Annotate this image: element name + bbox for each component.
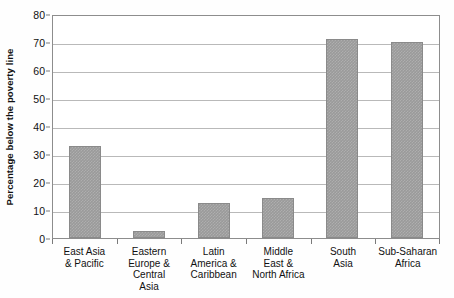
y-tick-mark: [46, 71, 50, 72]
y-axis-title: Percentage below the poverty line: [4, 49, 15, 206]
bar-slot: [182, 16, 246, 238]
y-axis-ticks: 01020304050607080: [18, 0, 50, 298]
x-category-label-line: & Pacific: [53, 258, 116, 270]
x-category-label-line: North Africa: [247, 269, 310, 281]
x-category-label-line: Sub-Saharan: [376, 246, 439, 258]
y-tick-mark: [46, 99, 50, 100]
y-tick-mark: [46, 15, 50, 16]
y-tick-label: 0: [39, 233, 45, 245]
x-category-label-line: Africa: [376, 258, 439, 270]
bar-slot: [117, 16, 181, 238]
x-category-label-line: America &: [182, 258, 245, 270]
y-tick-label: 50: [33, 93, 45, 105]
y-tick-mark: [46, 127, 50, 128]
x-axis-ticks: [52, 239, 440, 245]
y-tick-label: 10: [33, 205, 45, 217]
bar-slot: [310, 16, 374, 238]
bar-slot: [246, 16, 310, 238]
x-category-label: EasternEurope &CentralAsia: [117, 246, 182, 292]
x-category-label: East Asia& Pacific: [52, 246, 117, 292]
y-axis-title-container: Percentage below the poverty line: [0, 15, 18, 239]
bar: [326, 39, 358, 238]
bar: [391, 42, 423, 238]
y-tick-mark: [46, 43, 50, 44]
x-category-label-line: Europe &: [118, 258, 181, 270]
bar-series: [53, 16, 439, 238]
x-category-label-line: Eastern: [118, 246, 181, 258]
x-category-label-line: Asia: [312, 258, 375, 270]
x-category-label-line: Middle: [247, 246, 310, 258]
y-tick-mark: [46, 239, 50, 240]
x-category-label: MiddleEast &North Africa: [246, 246, 311, 292]
bar-slot: [375, 16, 439, 238]
y-tick-label: 30: [33, 149, 45, 161]
bar: [262, 198, 294, 238]
x-category-label-line: Caribbean: [182, 269, 245, 281]
x-category-label-line: East &: [247, 258, 310, 270]
bar: [133, 231, 165, 238]
x-category-label: LatinAmerica &Caribbean: [181, 246, 246, 292]
y-tick-label: 60: [33, 65, 45, 77]
x-tick-mark: [52, 239, 53, 244]
y-tick-label: 40: [33, 121, 45, 133]
x-category-label-line: Central: [118, 269, 181, 281]
x-tick-mark: [439, 239, 440, 244]
y-tick-mark: [46, 211, 50, 212]
bar: [198, 203, 230, 238]
y-tick-label: 70: [33, 37, 45, 49]
x-tick-mark: [375, 239, 376, 244]
y-tick-mark: [46, 183, 50, 184]
x-category-label-line: South: [312, 246, 375, 258]
x-tick-mark: [246, 239, 247, 244]
x-tick-mark: [181, 239, 182, 244]
x-category-label: SouthAsia: [311, 246, 376, 292]
x-tick-mark: [311, 239, 312, 244]
x-category-label-line: Asia: [118, 281, 181, 293]
bar-slot: [53, 16, 117, 238]
x-axis-category-labels: East Asia& PacificEasternEurope &Central…: [52, 246, 440, 292]
bar: [69, 146, 101, 238]
plot-area: [52, 15, 440, 239]
bar-chart-figure: Percentage below the poverty line 010203…: [0, 0, 454, 298]
x-tick-mark: [117, 239, 118, 244]
y-tick-mark: [46, 155, 50, 156]
y-tick-label: 80: [33, 9, 45, 21]
y-tick-label: 20: [33, 177, 45, 189]
x-category-label-line: East Asia: [53, 246, 116, 258]
x-category-label-line: Latin: [182, 246, 245, 258]
x-category-label: Sub-SaharanAfrica: [375, 246, 440, 292]
